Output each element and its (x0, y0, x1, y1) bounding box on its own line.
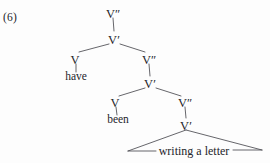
branch-lines (76, 18, 186, 118)
node-v-been: V (110, 96, 119, 110)
terminal-have: have (65, 70, 87, 82)
syntax-tree-figure: (6) V″ V′ V V″ V′ V V″ V′ (0, 0, 270, 163)
node-v-have: V (70, 53, 79, 67)
branch-vbartop-to-v-have (79, 44, 109, 52)
example-number: (6) (3, 11, 17, 23)
node-vbar-low: V′ (180, 119, 192, 133)
node-vbar-mid: V′ (144, 77, 156, 91)
branch-vbartop-to-vbar2mid (120, 44, 145, 52)
node-vbar2-low: V″ (178, 96, 192, 110)
branch-vbarmid-to-v-been (119, 88, 145, 96)
node-vbar-top: V′ (108, 33, 120, 47)
node-labels: V″ V′ V V″ V′ V V″ V′ (70, 7, 192, 133)
branch-vbarmid-to-vbar2low (156, 88, 181, 96)
terminal-phrase-writing-a-letter: writing a letter (159, 144, 230, 158)
tree-diagram-svg: V″ V′ V V″ V′ V V″ V′ have been writing … (0, 0, 270, 163)
terminal-been: been (107, 113, 129, 125)
node-vbar2-mid: V″ (142, 53, 156, 67)
node-vbar2-top: V″ (106, 7, 120, 21)
